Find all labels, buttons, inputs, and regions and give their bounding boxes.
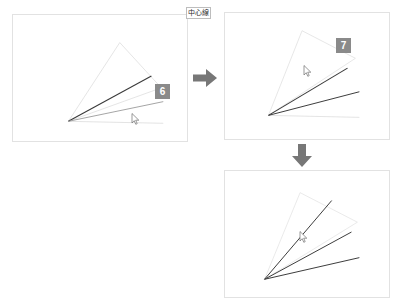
ray-lower-dark — [268, 92, 359, 116]
step-panel-2[interactable] — [224, 12, 390, 140]
ray-shallow-dark — [265, 258, 360, 280]
step-panel-1[interactable] — [12, 14, 188, 142]
mouse-cursor — [131, 113, 140, 125]
construction-triangle — [68, 43, 161, 122]
right-arrow-icon — [191, 64, 219, 92]
angle-canvas-1[interactable] — [13, 15, 187, 141]
mouse-cursor — [303, 65, 312, 77]
step-badge-7: 7 — [336, 38, 351, 53]
angle-drawing-1 — [13, 15, 187, 141]
center-line-label: 中心線 — [186, 7, 211, 19]
down-arrow-icon — [288, 143, 316, 169]
cursor-icon — [303, 65, 312, 77]
step-badge-6: 6 — [155, 84, 170, 99]
flow-arrow-right — [191, 64, 219, 92]
baseline-ray — [268, 115, 359, 117]
flow-arrow-down — [288, 143, 316, 169]
cursor-icon — [299, 231, 308, 243]
cursor-icon — [131, 113, 140, 125]
baseline-ray — [68, 121, 163, 123]
step-panel-3[interactable] — [224, 170, 390, 298]
mouse-cursor — [299, 231, 308, 243]
